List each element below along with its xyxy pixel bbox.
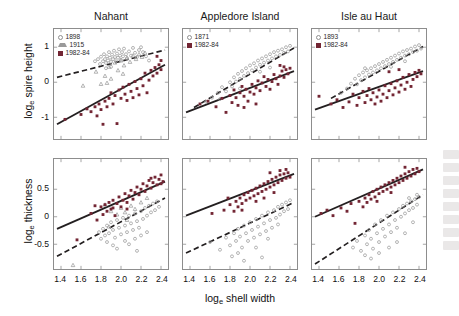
- data-point-1898: [97, 58, 100, 61]
- data-point-1893: [376, 232, 379, 235]
- data-point-1871: [251, 228, 254, 231]
- data-point-1915: [103, 74, 107, 77]
- data-point-1982-84: [354, 222, 357, 225]
- data-point-1982-84: [76, 238, 79, 241]
- data-point-1982-84: [128, 194, 131, 197]
- data-point-1982-84: [134, 80, 137, 83]
- data-point-1982-84: [275, 176, 278, 179]
- data-point-1982-84: [118, 89, 121, 92]
- open-triangle-icon: [58, 43, 67, 47]
- data-point-1982-84: [102, 123, 105, 126]
- legend-item: 1982-84: [58, 49, 90, 57]
- data-point-1898: [140, 46, 143, 49]
- data-point-1982-84: [418, 69, 421, 72]
- data-point-1982-84: [247, 191, 250, 194]
- data-point-1982-84: [229, 94, 232, 97]
- panel-title-nahant: Nahant: [53, 10, 169, 22]
- data-point-1982-84: [225, 111, 228, 114]
- data-point-1871: [259, 70, 262, 73]
- data-point-1893: [416, 193, 419, 196]
- data-point-1893: [372, 247, 375, 250]
- data-point-1982-84: [416, 167, 419, 170]
- data-point-1871: [281, 203, 284, 206]
- data-point-1898: [136, 220, 139, 223]
- legend-item: 1915: [58, 41, 90, 49]
- x-tick-label: 2.4: [278, 274, 304, 284]
- data-point-1893: [384, 235, 387, 238]
- data-point-1982-84: [279, 169, 282, 172]
- data-point-1982-84: [257, 79, 260, 82]
- data-point-1982-84: [336, 98, 339, 101]
- data-point-1982-84: [368, 193, 371, 196]
- data-point-1982-84: [112, 103, 115, 106]
- data-point-1893: [412, 221, 415, 224]
- data-point-1982-84: [243, 193, 246, 196]
- legend-item: 1898: [58, 33, 90, 41]
- data-point-1898: [121, 51, 124, 54]
- data-point-1982-84: [332, 214, 335, 217]
- data-point-1898: [114, 236, 117, 239]
- data-point-1982-84: [271, 178, 274, 181]
- data-point-1982-84: [340, 207, 343, 210]
- data-point-1893: [406, 49, 409, 52]
- data-point-1893: [368, 73, 371, 76]
- data-point-1893: [352, 246, 355, 249]
- data-point-1893: [398, 52, 401, 55]
- data-point-1871: [265, 230, 268, 233]
- data-point-1982-84: [106, 210, 109, 213]
- data-point-1982-84: [247, 100, 250, 103]
- data-point-1982-84: [275, 77, 278, 80]
- data-point-1915: [125, 56, 129, 59]
- data-point-1893: [406, 202, 409, 205]
- y-tick-label: -0.5: [23, 239, 49, 249]
- data-point-1893: [378, 252, 381, 255]
- data-point-1898: [108, 232, 111, 235]
- data-point-1898: [113, 49, 116, 52]
- data-point-1871: [275, 216, 278, 219]
- legend-label: 1898: [66, 33, 81, 41]
- data-point-1898: [146, 231, 149, 234]
- data-point-1871: [263, 61, 266, 64]
- data-point-1915: [145, 196, 149, 199]
- data-point-1982-84: [404, 88, 407, 91]
- data-point-1871: [255, 246, 258, 249]
- data-point-1893: [404, 60, 407, 63]
- data-point-1982-84: [207, 100, 210, 103]
- data-point-1982-84: [279, 64, 282, 67]
- data-point-1871: [243, 74, 246, 77]
- data-point-1982-84: [416, 75, 419, 78]
- data-point-1982-84: [279, 75, 282, 78]
- data-point-1898: [118, 226, 121, 229]
- x-tick-label: 2.4: [407, 274, 433, 284]
- data-point-1898: [112, 244, 115, 247]
- data-point-1982-84: [392, 93, 395, 96]
- data-point-1871: [277, 49, 280, 52]
- data-point-1982-84: [215, 105, 218, 108]
- data-point-1898: [106, 241, 109, 244]
- data-point-1871: [243, 259, 246, 262]
- data-point-1898: [146, 214, 149, 217]
- data-point-1982-84: [116, 122, 119, 125]
- data-point-1982-84: [376, 200, 379, 203]
- data-point-1898: [130, 222, 133, 225]
- data-point-1898: [122, 216, 125, 219]
- data-point-1871: [261, 57, 264, 60]
- data-point-1982-84: [221, 97, 224, 100]
- data-point-1871: [271, 226, 274, 229]
- data-point-1982-84: [372, 190, 375, 193]
- data-point-1982-84: [269, 186, 272, 189]
- data-point-1915: [129, 204, 133, 207]
- data-point-1982-84: [150, 187, 153, 190]
- data-point-1871: [221, 86, 224, 89]
- data-point-1871: [257, 225, 260, 228]
- filled-square-icon: [58, 51, 63, 56]
- data-point-1982-84: [126, 201, 129, 204]
- data-point-1898: [103, 53, 106, 56]
- data-point-1871: [241, 246, 244, 249]
- data-point-1893: [404, 212, 407, 215]
- data-point-1982-84: [396, 177, 399, 180]
- data-point-1982-84: [156, 55, 159, 58]
- data-point-1982-84: [104, 100, 107, 103]
- data-point-1898: [116, 247, 119, 250]
- data-point-1915: [81, 84, 85, 87]
